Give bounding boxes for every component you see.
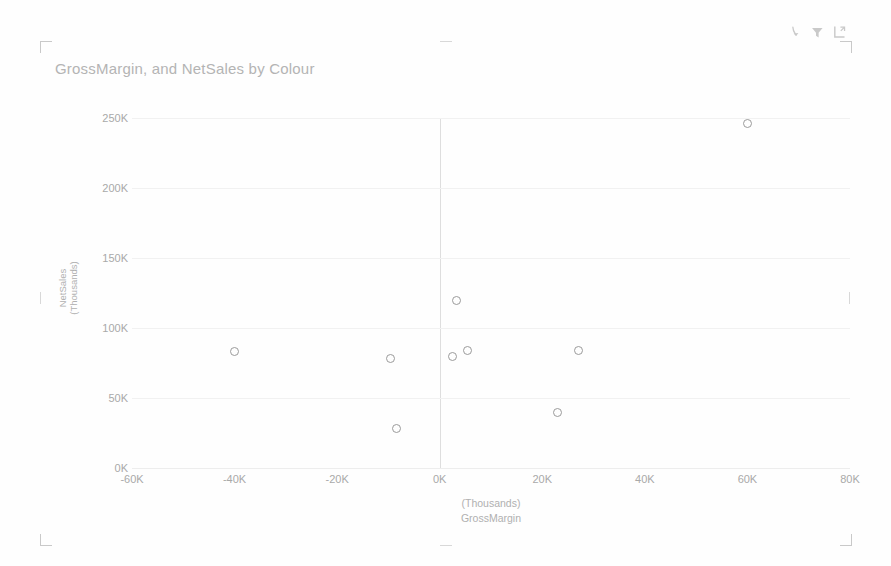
x-tick-label: -40K <box>223 473 246 485</box>
scatter-point[interactable] <box>386 354 395 363</box>
resize-handle-bottom[interactable] <box>440 545 452 546</box>
x-axis-line <box>132 468 850 469</box>
visual-header-icons <box>788 25 847 40</box>
y-axis-tick-labels: 0K50K100K150K200K250K <box>88 118 128 468</box>
scatter-point[interactable] <box>743 119 752 128</box>
gridline-horizontal <box>132 118 850 119</box>
scatter-point[interactable] <box>463 346 472 355</box>
resize-handle-top[interactable] <box>440 41 452 42</box>
scatter-point[interactable] <box>392 424 401 433</box>
chart-title: GrossMargin, and NetSales by Colour <box>55 60 315 77</box>
x-tick-label: 20K <box>532 473 552 485</box>
gridline-horizontal <box>132 328 850 329</box>
x-tick-label: 0K <box>433 473 446 485</box>
y-tick-label: 50K <box>108 392 128 404</box>
scatter-point[interactable] <box>448 352 457 361</box>
y-axis-title-measure: NetSales <box>57 261 68 314</box>
y-axis-title: NetSales (Thousands) <box>55 243 81 333</box>
x-tick-label: 40K <box>635 473 655 485</box>
y-tick-label: 250K <box>102 112 128 124</box>
resize-handle-left[interactable] <box>40 292 41 304</box>
selection-corner-top-left <box>40 41 52 53</box>
scatter-point[interactable] <box>553 408 562 417</box>
selection-corner-bottom-right <box>840 534 852 546</box>
selection-corner-top-right <box>840 41 852 53</box>
x-tick-label: -60K <box>120 473 143 485</box>
plot-area[interactable] <box>132 118 850 468</box>
x-axis-title-unit: (Thousands) <box>132 496 850 511</box>
filter-icon[interactable] <box>810 25 825 40</box>
y-tick-label: 150K <box>102 252 128 264</box>
gridline-horizontal <box>132 258 850 259</box>
scatter-chart-visual[interactable]: GrossMargin, and NetSales by Colour NetS… <box>0 0 891 566</box>
scatter-point[interactable] <box>574 346 583 355</box>
x-tick-label: 60K <box>738 473 758 485</box>
scatter-point[interactable] <box>452 296 461 305</box>
scatter-point[interactable] <box>230 347 239 356</box>
focus-mode-icon[interactable] <box>832 25 847 40</box>
y-tick-label: 200K <box>102 182 128 194</box>
x-axis-title: (Thousands) GrossMargin <box>132 496 850 526</box>
x-tick-label: 80K <box>840 473 860 485</box>
x-axis-title-measure: GrossMargin <box>132 511 850 526</box>
selection-corner-bottom-left <box>40 534 52 546</box>
drill-down-icon[interactable] <box>788 25 803 40</box>
y-axis-title-unit: (Thousands) <box>68 261 79 314</box>
gridline-horizontal <box>132 188 850 189</box>
gridline-horizontal <box>132 398 850 399</box>
y-tick-label: 100K <box>102 322 128 334</box>
x-zero-reference-line <box>440 118 441 468</box>
x-tick-label: -20K <box>326 473 349 485</box>
x-axis-tick-labels: -60K-40K-20K0K20K40K60K80K <box>132 473 850 489</box>
